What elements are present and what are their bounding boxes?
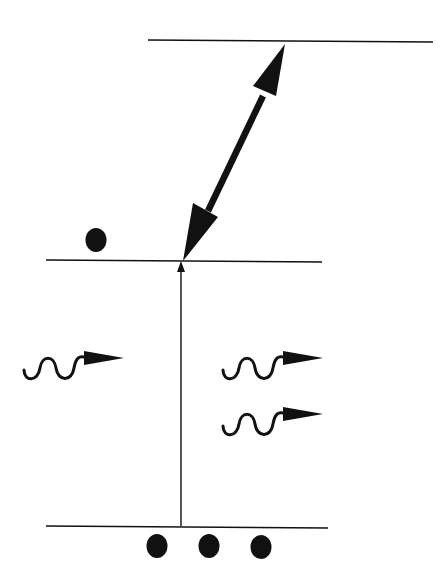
double-arrow-icon: [183, 44, 285, 261]
population-dots-ground: [147, 534, 272, 559]
energy-level-diagram: [0, 0, 446, 582]
energy-level-upper: [148, 40, 433, 42]
photon-wave-icon: [24, 351, 124, 379]
energy-level-middle: [46, 260, 322, 262]
photon-wave-icon: [223, 351, 323, 379]
population-dot-middle: [86, 228, 107, 252]
pump-arrow-icon: [177, 261, 185, 526]
photon-wave-icon: [223, 407, 323, 435]
energy-level-ground: [46, 526, 328, 528]
